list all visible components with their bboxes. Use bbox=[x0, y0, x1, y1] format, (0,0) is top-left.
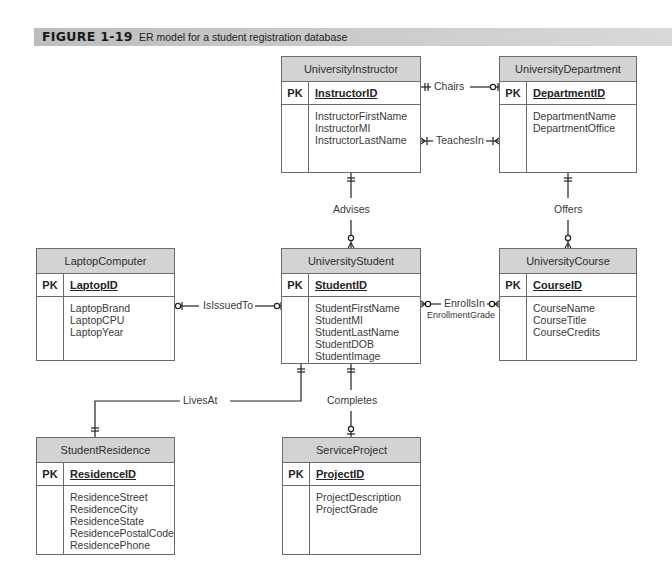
rel-label-advises: Advises bbox=[331, 203, 372, 215]
entity-pk-row: PKCourseID bbox=[500, 274, 636, 297]
attribute-list: InstructorFirstNameInstructorMIInstructo… bbox=[309, 104, 407, 172]
attribute-field: LaptopYear bbox=[70, 326, 130, 338]
attribute-field: ResidenceState bbox=[70, 515, 174, 527]
entity-pk-row: PKInstructorID bbox=[282, 82, 420, 105]
pk-field: DepartmentID bbox=[527, 82, 605, 104]
entity-attributes: ResidenceStreetResidenceCityResidenceSta… bbox=[37, 485, 174, 554]
pk-field: CourseID bbox=[527, 274, 582, 296]
entity-attributes: InstructorFirstNameInstructorMIInstructo… bbox=[282, 104, 420, 172]
pk-label: PK bbox=[282, 274, 309, 296]
rel-label-lives-at: LivesAt bbox=[181, 394, 219, 406]
entity-university-instructor: UniversityInstructor PKInstructorID Inst… bbox=[281, 56, 421, 173]
attribute-list: StudentFirstNameStudentMIStudentLastName… bbox=[309, 296, 400, 363]
rel-label-teaches-in: TeachesIn bbox=[434, 134, 486, 146]
attribute-field: ResidencePostalCode bbox=[70, 527, 174, 539]
attr-gutter bbox=[500, 296, 527, 360]
entity-title: ServiceProject bbox=[283, 438, 420, 463]
pk-label: PK bbox=[37, 274, 64, 296]
pk-label: PK bbox=[282, 82, 309, 104]
entity-university-course: UniversityCourse PKCourseID CourseNameCo… bbox=[499, 248, 637, 361]
attr-gutter bbox=[37, 485, 64, 554]
attribute-field: ResidenceCity bbox=[70, 503, 174, 515]
attribute-field: CourseTitle bbox=[533, 314, 600, 326]
entity-university-student: UniversityStudent PKStudentID StudentFir… bbox=[281, 248, 421, 364]
entity-laptop-computer: LaptopComputer PKLaptopID LaptopBrandLap… bbox=[36, 248, 175, 361]
pk-label: PK bbox=[37, 463, 64, 485]
entity-title: StudentResidence bbox=[37, 438, 174, 463]
attribute-field: ResidencePhone bbox=[70, 539, 174, 551]
entity-attributes: CourseNameCourseTitleCourseCredits bbox=[500, 296, 636, 360]
attr-gutter bbox=[283, 485, 310, 554]
rel-label-offers: Offers bbox=[552, 203, 584, 215]
attribute-list: ResidenceStreetResidenceCityResidenceSta… bbox=[64, 485, 174, 554]
pk-label: PK bbox=[500, 274, 527, 296]
attribute-field: DepartmentOffice bbox=[533, 122, 616, 134]
entity-student-residence: StudentResidence PKResidenceID Residence… bbox=[36, 437, 175, 555]
entity-title: UniversityInstructor bbox=[282, 57, 420, 82]
attribute-field: StudentDOB bbox=[315, 338, 400, 350]
rel-label-enrolls-in: EnrollsIn bbox=[442, 297, 487, 309]
attribute-list: DepartmentNameDepartmentOffice bbox=[527, 104, 616, 172]
entity-pk-row: PKStudentID bbox=[282, 274, 420, 297]
entity-pk-row: PKLaptopID bbox=[37, 274, 174, 297]
attr-gutter bbox=[500, 104, 527, 172]
attribute-field: InstructorLastName bbox=[315, 134, 407, 146]
attribute-field: StudentFirstName bbox=[315, 302, 400, 314]
entity-attributes: StudentFirstNameStudentMIStudentLastName… bbox=[282, 296, 420, 363]
entity-pk-row: PKDepartmentID bbox=[500, 82, 636, 105]
attribute-field: ResidenceStreet bbox=[70, 491, 174, 503]
attribute-list: ProjectDescriptionProjectGrade bbox=[310, 485, 401, 554]
rel-attr-enrollment-grade: EnrollmentGrade bbox=[427, 310, 495, 320]
entity-pk-row: PKProjectID bbox=[283, 463, 420, 486]
attribute-field: StudentImage bbox=[315, 350, 400, 362]
attribute-field: ProjectGrade bbox=[316, 503, 401, 515]
attribute-field: LaptopCPU bbox=[70, 314, 130, 326]
rel-label-is-issued-to: IsIssuedTo bbox=[201, 299, 255, 311]
entity-attributes: LaptopBrandLaptopCPULaptopYear bbox=[37, 296, 174, 360]
entity-attributes: ProjectDescriptionProjectGrade bbox=[283, 485, 420, 554]
attr-gutter bbox=[282, 296, 309, 363]
attribute-field: DepartmentName bbox=[533, 110, 616, 122]
entity-title: UniversityStudent bbox=[282, 249, 420, 274]
pk-label: PK bbox=[500, 82, 527, 104]
attribute-field: StudentLastName bbox=[315, 326, 400, 338]
pk-field: ProjectID bbox=[310, 463, 364, 485]
attribute-field: CourseCredits bbox=[533, 326, 600, 338]
pk-field: ResidenceID bbox=[64, 463, 136, 485]
entity-service-project: ServiceProject PKProjectID ProjectDescri… bbox=[282, 437, 421, 555]
rel-label-completes: Completes bbox=[325, 394, 379, 406]
attr-gutter bbox=[282, 104, 309, 172]
pk-field: StudentID bbox=[309, 274, 367, 296]
pk-label: PK bbox=[283, 463, 310, 485]
attribute-field: LaptopBrand bbox=[70, 302, 130, 314]
attr-gutter bbox=[37, 296, 64, 360]
rel-label-chairs: Chairs bbox=[432, 80, 466, 92]
entity-title: LaptopComputer bbox=[37, 249, 174, 274]
entity-title: UniversityDepartment bbox=[500, 57, 636, 82]
entity-title: UniversityCourse bbox=[500, 249, 636, 274]
entity-university-department: UniversityDepartment PKDepartmentID Depa… bbox=[499, 56, 637, 173]
entity-pk-row: PKResidenceID bbox=[37, 463, 174, 486]
attribute-field: InstructorFirstName bbox=[315, 110, 407, 122]
pk-field: InstructorID bbox=[309, 82, 377, 104]
attribute-list: LaptopBrandLaptopCPULaptopYear bbox=[64, 296, 130, 360]
attribute-field: ProjectDescription bbox=[316, 491, 401, 503]
attribute-field: StudentMI bbox=[315, 314, 400, 326]
entity-attributes: DepartmentNameDepartmentOffice bbox=[500, 104, 636, 172]
pk-field: LaptopID bbox=[64, 274, 118, 296]
attribute-field: InstructorMI bbox=[315, 122, 407, 134]
attribute-list: CourseNameCourseTitleCourseCredits bbox=[527, 296, 600, 360]
attribute-field: CourseName bbox=[533, 302, 600, 314]
